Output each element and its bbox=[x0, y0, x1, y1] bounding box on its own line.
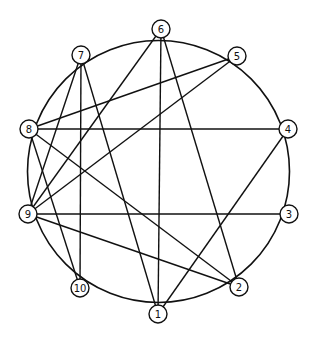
node-label: 1 bbox=[155, 309, 161, 320]
node-label: 5 bbox=[234, 51, 240, 62]
node-6: 6 bbox=[152, 20, 170, 38]
node-label: 4 bbox=[285, 124, 291, 135]
edges bbox=[28, 29, 289, 314]
edge-8-2 bbox=[29, 129, 239, 287]
edge-9-2 bbox=[28, 214, 239, 287]
node-label: 10 bbox=[74, 283, 87, 294]
node-label: 3 bbox=[286, 209, 292, 220]
node-1: 1 bbox=[149, 305, 167, 323]
node-9: 9 bbox=[19, 205, 37, 223]
node-10: 10 bbox=[71, 279, 89, 297]
node-8: 8 bbox=[20, 120, 38, 138]
node-7: 7 bbox=[72, 46, 90, 64]
node-4: 4 bbox=[279, 120, 297, 138]
edge-7-1 bbox=[81, 55, 158, 314]
edge-7-10 bbox=[80, 55, 81, 288]
node-2: 2 bbox=[230, 278, 248, 296]
node-5: 5 bbox=[228, 47, 246, 65]
edge-6-1 bbox=[158, 29, 161, 314]
node-label: 7 bbox=[78, 50, 84, 61]
node-3: 3 bbox=[280, 205, 298, 223]
node-label: 8 bbox=[26, 124, 32, 135]
edge-5-9 bbox=[28, 56, 237, 214]
node-label: 2 bbox=[236, 282, 242, 293]
edge-6-2 bbox=[161, 29, 239, 287]
node-label: 6 bbox=[158, 24, 164, 35]
graph-diagram: 12345678910 bbox=[0, 0, 317, 338]
node-label: 9 bbox=[25, 209, 31, 220]
